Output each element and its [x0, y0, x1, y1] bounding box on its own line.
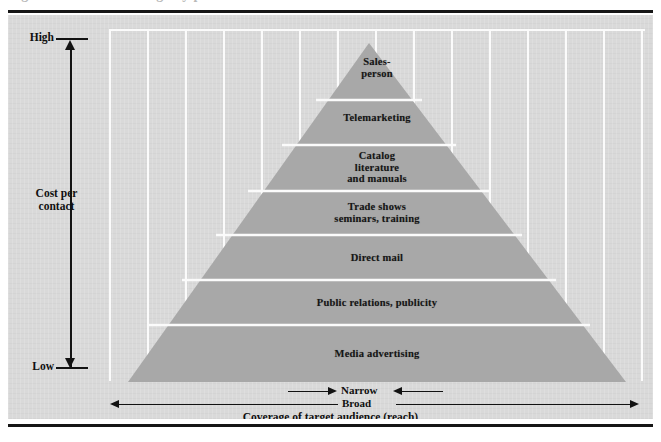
- figure-caption-text: Figure Cost and coverage by promotional …: [8, 0, 323, 3]
- figure-panel: Sales- person Telemarketing Catalog lite…: [8, 15, 653, 419]
- axis-label-narrow: Narrow: [341, 384, 377, 396]
- top-rule: [8, 10, 653, 13]
- broad-line-left: [118, 404, 338, 405]
- axis-title-line-1: Cost per: [8, 187, 105, 200]
- pyramid-level-4-label: Trade shows seminars, training: [109, 201, 645, 224]
- coverage-axis: Narrow Broad Coverage of target audience…: [8, 385, 653, 419]
- pyramid-level-3-label: Catalog literature and manuals: [109, 150, 645, 185]
- broad-line-right: [396, 404, 631, 405]
- axis-title-cost-per-contact: Cost per contact: [8, 187, 105, 213]
- pyramid-level-6-label: Public relations, publicity: [109, 297, 645, 309]
- bottom-rule: [8, 424, 653, 427]
- pyramid-level-5-label: Direct mail: [109, 252, 645, 264]
- pyramid-level-7-label: Media advertising: [109, 348, 645, 360]
- figure-caption-remnant: Figure Cost and coverage by promotional …: [0, 0, 661, 9]
- promotion-pyramid: Sales- person Telemarketing Catalog lite…: [109, 28, 645, 383]
- cost-axis: High Low Cost per contact: [8, 15, 109, 419]
- axis-label-broad: Broad: [342, 397, 371, 409]
- pyramid-level-1-label: Sales- person: [109, 56, 645, 79]
- axis-label-high: High: [14, 31, 54, 43]
- axis-label-low: Low: [14, 360, 54, 372]
- arrow-right-icon: [328, 387, 337, 395]
- axis-title-coverage: Coverage of target audience (reach): [8, 411, 653, 419]
- narrow-row: Narrow: [8, 385, 653, 397]
- narrow-line-left: [288, 391, 330, 392]
- broad-row: Broad: [8, 397, 653, 411]
- axis-title-line-2: contact: [8, 200, 105, 213]
- arrow-right-icon: [630, 400, 639, 408]
- axis-cap-low: [56, 367, 88, 369]
- pyramid-level-2-label: Telemarketing: [109, 112, 645, 124]
- narrow-line-right: [401, 391, 443, 392]
